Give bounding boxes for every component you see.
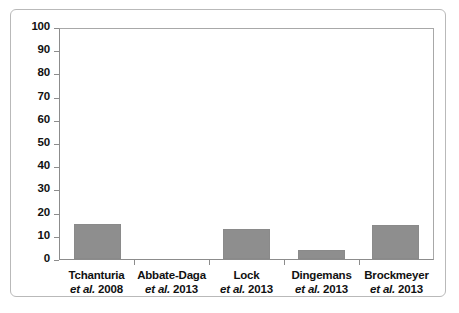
bar[interactable] — [74, 224, 121, 259]
category-citation: et al. 2008 — [59, 282, 134, 296]
x-axis-category-label: Locket al. 2013 — [209, 268, 284, 296]
figure-frame: 0102030405060708090100 Tchanturiaet al. … — [10, 9, 446, 297]
x-axis-category-label: Brockmeyeret al. 2013 — [359, 268, 434, 296]
y-axis-tick-label: 40 — [38, 159, 50, 171]
bar-slot — [284, 29, 359, 259]
bar[interactable] — [372, 225, 419, 259]
category-author: Abbate-Daga — [134, 268, 209, 282]
y-axis-tick-label: 10 — [38, 229, 50, 241]
category-year: 2013 — [323, 283, 348, 295]
category-citation: et al. 2013 — [209, 282, 284, 296]
category-year: 2013 — [398, 283, 423, 295]
bar-slot — [135, 29, 210, 259]
x-axis-tick-mark — [284, 260, 285, 265]
y-axis-tick-label: 0 — [44, 252, 50, 264]
y-axis-tick-label: 20 — [38, 206, 50, 218]
bar-slot — [358, 29, 433, 259]
category-etal: et al. — [220, 283, 245, 295]
y-axis: 0102030405060708090100 — [11, 28, 59, 260]
bar[interactable] — [298, 250, 345, 259]
x-axis-tick-mark — [209, 260, 210, 265]
category-etal: et al. — [370, 283, 395, 295]
bar-series — [60, 29, 433, 259]
category-author: Lock — [209, 268, 284, 282]
x-axis-tick-mark — [134, 260, 135, 265]
plot-area — [59, 28, 434, 260]
category-author: Tchanturia — [59, 268, 134, 282]
category-author: Brockmeyer — [359, 268, 434, 282]
category-year: 2013 — [248, 283, 273, 295]
x-axis-category-label: Abbate-Dagaet al. 2013 — [134, 268, 209, 296]
y-axis-tick-label: 50 — [38, 136, 50, 148]
category-etal: et al. — [70, 283, 95, 295]
y-axis-tick-label: 100 — [31, 20, 50, 32]
y-axis-tick-label: 80 — [38, 66, 50, 78]
category-year: 2008 — [98, 283, 123, 295]
bar-slot — [60, 29, 135, 259]
bar[interactable] — [223, 229, 270, 259]
y-axis-tick-label: 70 — [38, 90, 50, 102]
category-author: Dingemans — [284, 268, 359, 282]
category-citation: et al. 2013 — [134, 282, 209, 296]
category-citation: et al. 2013 — [359, 282, 434, 296]
category-year: 2013 — [173, 283, 198, 295]
y-axis-tick-label: 90 — [38, 43, 50, 55]
bar-slot — [209, 29, 284, 259]
x-axis-labels: Tchanturiaet al. 2008Abbate-Dagaet al. 2… — [59, 268, 434, 296]
category-etal: et al. — [295, 283, 320, 295]
x-axis-category-label: Tchanturiaet al. 2008 — [59, 268, 134, 296]
category-citation: et al. 2013 — [284, 282, 359, 296]
y-axis-tick-label: 60 — [38, 113, 50, 125]
x-axis-category-label: Dingemanset al. 2013 — [284, 268, 359, 296]
x-axis-ticks — [59, 260, 434, 266]
y-axis-tick-label: 30 — [38, 182, 50, 194]
x-axis-tick-mark — [359, 260, 360, 265]
category-etal: et al. — [145, 283, 170, 295]
